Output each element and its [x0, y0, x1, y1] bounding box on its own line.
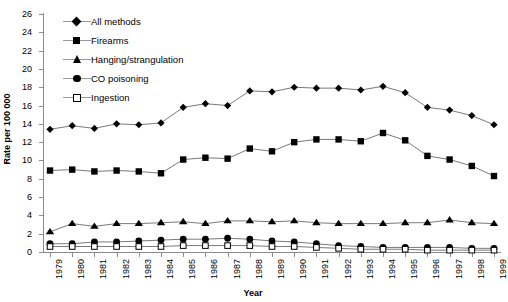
data-point: [424, 104, 431, 111]
data-point: [424, 153, 430, 159]
data-point: [424, 244, 431, 251]
y-tick-mark: [39, 87, 44, 88]
series-line: [50, 220, 494, 232]
x-tick-mark: [272, 252, 273, 257]
chart-legend: All methodsFirearmsHanging/strangulation…: [63, 12, 263, 107]
data-point: [491, 173, 497, 179]
legend-marker-diamond-icon: [63, 14, 91, 30]
y-tick-mark: [39, 142, 44, 143]
legend-item-co-poisoning: CO poisoning: [63, 69, 263, 88]
data-point: [46, 228, 54, 234]
series-line: [50, 133, 494, 176]
data-point: [313, 85, 320, 92]
data-point: [201, 220, 209, 226]
legend-marker-triangle-icon: [63, 52, 91, 68]
y-tick-label: 20: [16, 64, 32, 73]
data-point: [112, 220, 120, 226]
data-point: [202, 236, 209, 243]
data-point: [446, 244, 453, 251]
data-point: [269, 238, 276, 245]
x-tick-mark: [450, 252, 451, 257]
y-tick-label: 10: [16, 156, 32, 165]
data-point: [335, 85, 342, 92]
x-tick-mark: [472, 252, 473, 257]
data-point: [247, 243, 253, 249]
data-point: [269, 148, 275, 154]
data-point: [92, 244, 98, 250]
data-point: [335, 242, 342, 249]
data-point: [380, 244, 387, 251]
y-tick-mark: [39, 106, 44, 107]
data-point: [47, 167, 53, 173]
data-point: [180, 156, 186, 162]
data-point: [268, 88, 275, 95]
data-point: [380, 130, 386, 136]
y-tick-mark: [39, 32, 44, 33]
data-point: [136, 244, 142, 250]
data-point: [357, 86, 364, 93]
data-point: [157, 119, 164, 126]
data-point: [179, 218, 187, 224]
data-point: [269, 244, 275, 250]
x-tick-mark: [405, 252, 406, 257]
data-point: [136, 168, 142, 174]
data-point: [402, 89, 409, 96]
x-axis-title: Year: [0, 288, 506, 298]
data-point: [158, 244, 164, 250]
data-point: [203, 243, 209, 249]
data-point: [158, 237, 165, 244]
y-tick-label: 2: [16, 229, 32, 238]
legend-label: Ingestion: [91, 92, 130, 103]
data-point: [358, 138, 364, 144]
open-square-icon: [73, 94, 81, 102]
y-tick-mark: [39, 252, 44, 253]
y-tick-mark: [39, 234, 44, 235]
x-tick-mark: [383, 252, 384, 257]
y-tick-mark: [39, 124, 44, 125]
data-point: [469, 163, 475, 169]
data-point: [401, 219, 409, 225]
data-point: [223, 217, 231, 223]
y-tick-label: 26: [16, 10, 32, 19]
data-point: [47, 240, 54, 247]
series-line: [50, 238, 494, 248]
data-point: [268, 218, 276, 224]
legend-marker-open-square-icon: [63, 90, 91, 106]
data-point: [379, 83, 386, 90]
data-point: [113, 120, 120, 127]
x-tick-mark: [316, 252, 317, 257]
data-point: [69, 166, 75, 172]
y-axis-tick-labels: 26242220181614121086420: [14, 0, 32, 302]
data-point: [291, 244, 297, 250]
data-point: [290, 217, 298, 223]
data-point: [202, 155, 208, 161]
data-point: [180, 236, 187, 243]
series-co-poisoning: [47, 235, 498, 252]
data-point: [224, 155, 230, 161]
x-tick-mark: [361, 252, 362, 257]
data-point: [468, 245, 475, 252]
y-tick-label: 18: [16, 83, 32, 92]
y-tick-mark: [39, 69, 44, 70]
data-point: [291, 139, 297, 145]
y-axis-title-text: Rate per 100 000: [2, 93, 12, 164]
legend-item-hanging-strangulation: Hanging/strangulation: [63, 50, 263, 69]
data-point: [180, 243, 186, 249]
data-point: [490, 220, 498, 226]
data-point: [313, 240, 320, 247]
x-tick-mark: [205, 252, 206, 257]
series-line: [50, 246, 494, 251]
data-point: [113, 239, 120, 246]
data-point: [69, 122, 76, 129]
legend-item-ingestion: Ingestion: [63, 88, 263, 107]
data-point: [468, 219, 476, 225]
y-tick-label: 22: [16, 46, 32, 55]
data-point: [247, 145, 253, 151]
x-tick-mark: [250, 252, 251, 257]
data-point: [468, 112, 475, 119]
x-tick-mark: [72, 252, 73, 257]
data-point: [69, 244, 75, 250]
y-tick-mark: [39, 215, 44, 216]
y-tick-label: 14: [16, 119, 32, 128]
x-tick-mark: [339, 252, 340, 257]
